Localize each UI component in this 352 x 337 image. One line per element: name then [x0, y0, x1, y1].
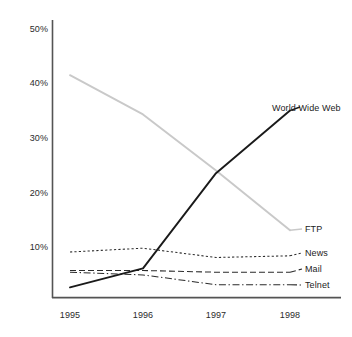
- x-axis-tick-1998: 1998: [270, 310, 310, 320]
- series-label-ftp: FTP: [305, 224, 322, 234]
- leader-line-mail: [290, 269, 302, 272]
- series-label-mail: Mail: [305, 264, 322, 274]
- leader-line-news: [290, 253, 302, 256]
- y-axis-tick-30: 30%: [18, 133, 48, 143]
- series-label-news: News: [305, 248, 328, 258]
- series-line-news: [70, 248, 290, 257]
- series-line-world-wide-web: [70, 111, 290, 288]
- x-axis-tick-1995: 1995: [50, 310, 90, 320]
- y-axis-tick-50: 50%: [18, 24, 48, 34]
- chart-plot-area: [0, 0, 352, 337]
- series-line-mail: [70, 271, 290, 273]
- series-label-world-wide-web: World Wide Web: [272, 103, 341, 113]
- x-axis-tick-1996: 1996: [123, 310, 163, 320]
- line-chart: 50% 40% 30% 20% 10% 1995 1996 1997 1998 …: [0, 0, 352, 337]
- y-axis-tick-10: 10%: [18, 242, 48, 252]
- y-axis-tick-20: 20%: [18, 188, 48, 198]
- y-axis-tick-40: 40%: [18, 78, 48, 88]
- series-label-telnet: Telnet: [305, 280, 330, 290]
- series-line-ftp: [70, 75, 290, 230]
- x-axis-tick-1997: 1997: [196, 310, 236, 320]
- leader-line-ftp: [290, 229, 302, 230]
